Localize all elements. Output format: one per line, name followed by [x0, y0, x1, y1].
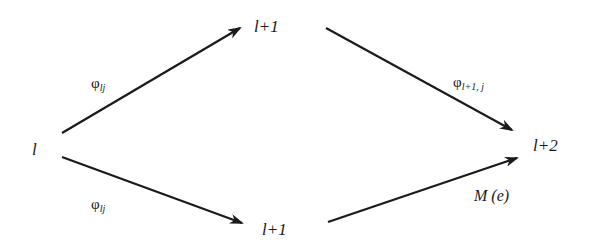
node-l-plus-1-bottom-text: l+1 [262, 220, 287, 239]
phi-subscript: lj [100, 203, 106, 214]
node-l-plus-1-bottom: l+1 [262, 221, 287, 238]
phi-symbol: φ [453, 74, 462, 90]
edge-label-phi-lj-top: φlj [91, 76, 105, 93]
m-e-text: M (e) [474, 187, 509, 204]
edge-start-to-mid-bottom [62, 157, 242, 223]
node-l: l [32, 141, 37, 158]
node-l-text: l [32, 140, 37, 159]
node-l-plus-2: l+2 [533, 137, 558, 154]
phi-subscript: lj [100, 82, 106, 93]
edge-label-m-e: M (e) [474, 188, 509, 204]
phi-subscript: l+1, j [462, 81, 484, 92]
phi-symbol: φ [91, 75, 100, 91]
node-l-plus-2-text: l+2 [533, 136, 558, 155]
edge-mid-top-to-end [326, 28, 512, 130]
transition-diagram: l l+1 l+1 l+2 φlj φlj φl+1, j M (e) [0, 0, 604, 250]
node-l-plus-1-top-text: l+1 [254, 17, 279, 36]
edge-label-phi-lj-bottom: φlj [91, 197, 105, 214]
edge-label-phi-l1j: φl+1, j [453, 75, 484, 92]
node-l-plus-1-top: l+1 [254, 18, 279, 35]
edge-start-to-mid-top [62, 28, 240, 133]
phi-symbol: φ [91, 196, 100, 212]
